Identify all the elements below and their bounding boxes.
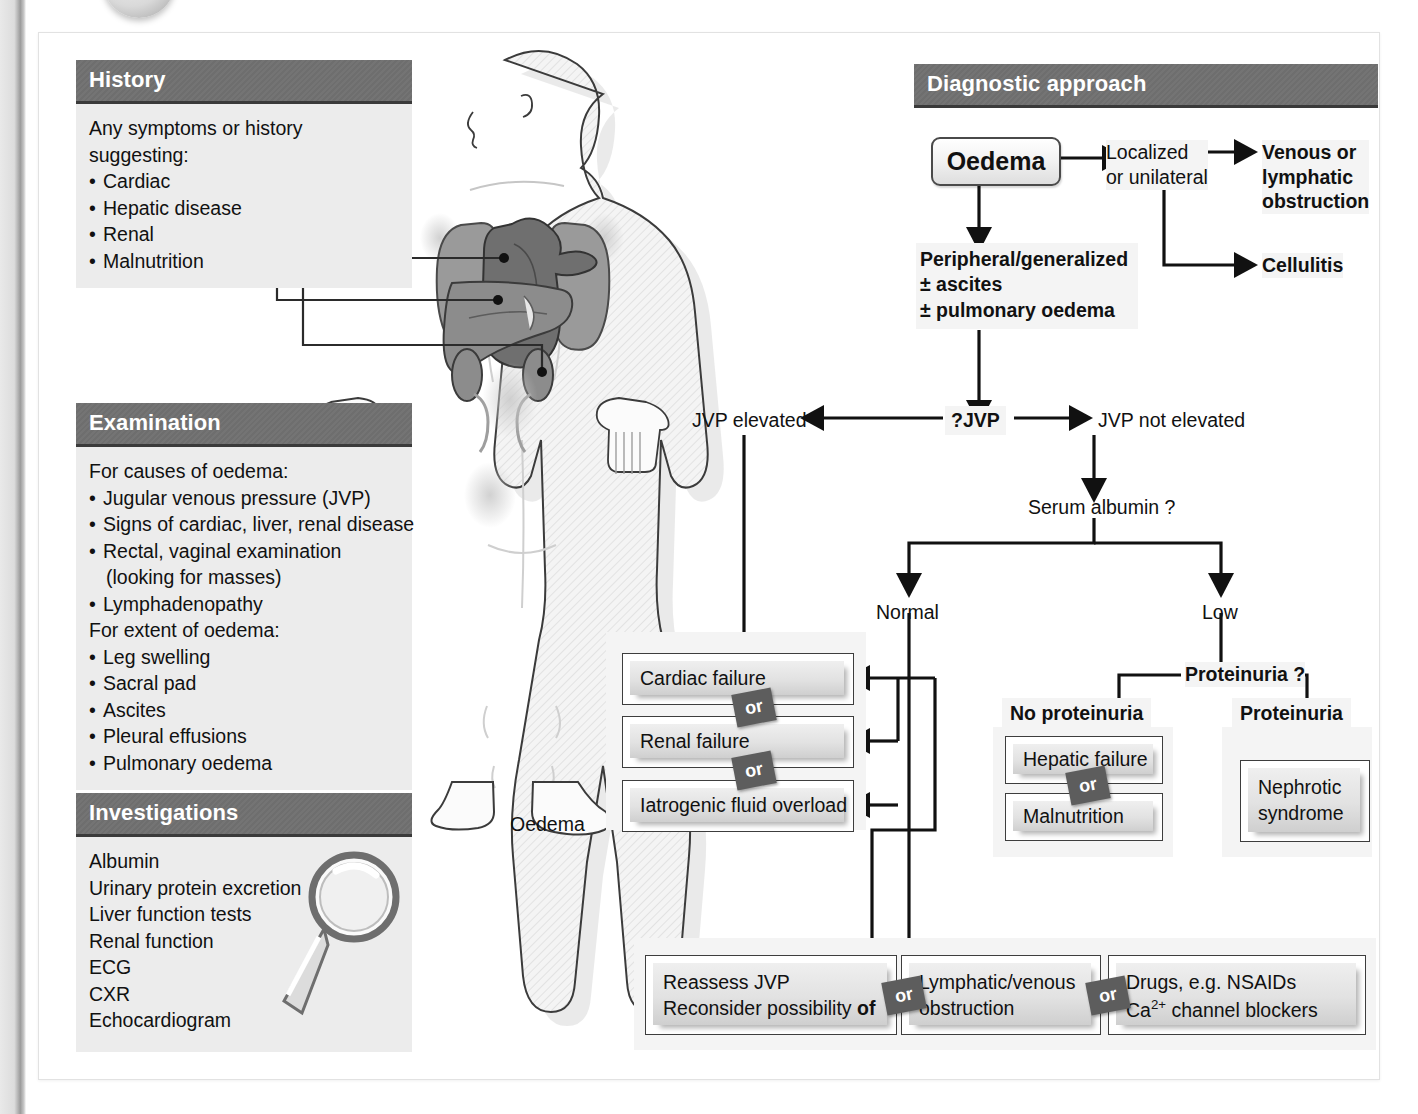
- investigations-panel-title: Investigations: [76, 793, 412, 837]
- box-drugs-line1: Drugs, e.g. NSAIDs: [1126, 970, 1356, 996]
- node-venous-line1: Venous or: [1262, 140, 1369, 165]
- examination-item-label: For extent of oedema:: [89, 619, 280, 641]
- box-reassess-line2-text: Reconsider possibility: [663, 997, 857, 1019]
- box-drugs-line2: Ca2+ channel blockers: [1126, 996, 1356, 1023]
- box-nephrotic-line1: Nephrotic: [1258, 775, 1360, 801]
- examination-item-label: Rectal, vaginal examination: [103, 540, 341, 562]
- investigations-panel: Investigations AlbuminUrinary protein ex…: [76, 793, 412, 1052]
- examination-panel-title: Examination: [76, 403, 412, 447]
- examination-item-7: •Leg swelling: [89, 644, 400, 671]
- examination-item-0: For causes of oedema:: [89, 458, 400, 485]
- box-reassess-jvp-label: Reassess JVP Reconsider possibility of: [653, 963, 887, 1025]
- investigations-panel-body: AlbuminUrinary protein excretionLiver fu…: [76, 837, 412, 1052]
- examination-item-label: (looking for masses): [106, 566, 282, 588]
- bullet-icon: •: [89, 697, 103, 724]
- box-lymphatic-venous-obstruction: Lymphatic/venous obstruction: [901, 955, 1101, 1035]
- history-panel: History Any symptoms or historysuggestin…: [76, 60, 412, 288]
- history-item-0: Any symptoms or history: [89, 115, 400, 142]
- examination-item-10: •Pleural effusions: [89, 723, 400, 750]
- examination-item-label: Lymphadenopathy: [103, 593, 263, 615]
- page-root: History Any symptoms or historysuggestin…: [0, 0, 1418, 1114]
- investigations-item-label: ECG: [89, 956, 131, 978]
- box-reassess-jvp: Reassess JVP Reconsider possibility of: [645, 955, 897, 1035]
- examination-item-label: Pleural effusions: [103, 725, 247, 747]
- examination-item-4: (looking for masses): [89, 564, 400, 591]
- history-item-4: •Renal: [89, 221, 400, 248]
- box-drugs-rest: channel blockers: [1166, 998, 1318, 1020]
- box-cardiac-failure-label: Cardiac failure: [630, 661, 844, 695]
- box-drugs: Drugs, e.g. NSAIDs Ca2+ channel blockers: [1108, 955, 1366, 1035]
- page-decoration-circle: [103, 0, 175, 18]
- box-reassess-line2-emph: of: [857, 997, 875, 1019]
- node-peripheral-line1: Peripheral/generalized: [920, 247, 1128, 272]
- examination-item-11: •Pulmonary oedema: [89, 750, 400, 777]
- examination-panel: Examination For causes of oedema:•Jugula…: [76, 403, 412, 790]
- node-oedema-label: Oedema: [947, 147, 1046, 176]
- examination-item-label: For causes of oedema:: [89, 460, 288, 482]
- examination-item-label: Leg swelling: [103, 646, 210, 668]
- history-item-2: •Cardiac: [89, 168, 400, 195]
- box-reassess-line1: Reassess JVP: [663, 970, 887, 996]
- node-normal: Normal: [876, 600, 939, 625]
- box-drugs-charge: 2+: [1151, 997, 1166, 1012]
- node-localized: Localized or unilateral: [1106, 140, 1208, 190]
- bullet-icon: •: [89, 750, 103, 777]
- examination-item-6: For extent of oedema:: [89, 617, 400, 644]
- box-lymphatic-line1: Lymphatic/venous: [919, 970, 1091, 996]
- page-left-gutter-strip: [0, 0, 26, 1114]
- diagnostic-approach-panel: Diagnostic approach: [914, 64, 1378, 108]
- box-iatrogenic-label: Iatrogenic fluid overload: [630, 788, 844, 822]
- examination-item-label: Sacral pad: [103, 672, 196, 694]
- bullet-icon: •: [89, 670, 103, 697]
- node-proteinuria-question: Proteinuria ?: [1185, 662, 1305, 687]
- node-jvp-not-elevated: JVP not elevated: [1098, 408, 1245, 433]
- examination-item-label: Jugular venous pressure (JVP): [103, 487, 371, 509]
- examination-panel-body: For causes of oedema:•Jugular venous pre…: [76, 447, 412, 790]
- examination-item-label: Pulmonary oedema: [103, 752, 272, 774]
- node-oedema: Oedema: [931, 137, 1061, 186]
- box-renal-failure-label: Renal failure: [630, 724, 844, 758]
- node-venous-line3: obstruction: [1262, 189, 1369, 214]
- box-nephrotic-syndrome-label: Nephrotic syndrome: [1248, 768, 1360, 832]
- examination-item-label: Signs of cardiac, liver, renal disease: [103, 513, 414, 535]
- investigations-item-label: Liver function tests: [89, 903, 252, 925]
- history-item-label: Cardiac: [103, 170, 170, 192]
- examination-item-2: •Signs of cardiac, liver, renal disease: [89, 511, 400, 538]
- box-nephrotic-syndrome: Nephrotic syndrome: [1240, 760, 1370, 842]
- history-panel-body: Any symptoms or historysuggesting:•Cardi…: [76, 104, 412, 288]
- box-reassess-line2: Reconsider possibility of: [663, 996, 887, 1022]
- box-drugs-label: Drugs, e.g. NSAIDs Ca2+ channel blockers: [1116, 963, 1356, 1025]
- bullet-icon: •: [89, 485, 103, 512]
- node-peripheral-line3: ± pulmonary oedema: [920, 298, 1128, 323]
- bullet-icon: •: [89, 195, 103, 222]
- node-jvp-elevated: JVP elevated: [692, 408, 807, 433]
- examination-item-label: Ascites: [103, 699, 166, 721]
- investigations-item-label: Echocardiogram: [89, 1009, 231, 1031]
- diagnostic-approach-title: Diagnostic approach: [914, 64, 1378, 108]
- bullet-icon: •: [89, 168, 103, 195]
- bullet-icon: •: [89, 644, 103, 671]
- bullet-icon: •: [89, 221, 103, 248]
- examination-item-3: •Rectal, vaginal examination: [89, 538, 400, 565]
- examination-item-8: •Sacral pad: [89, 670, 400, 697]
- bullet-icon: •: [89, 538, 103, 565]
- investigations-item-label: Renal function: [89, 930, 214, 952]
- history-item-label: Malnutrition: [103, 250, 204, 272]
- examination-item-5: •Lymphadenopathy: [89, 591, 400, 618]
- node-venous-lymphatic-obstruction: Venous or lymphatic obstruction: [1262, 140, 1369, 214]
- history-item-label: suggesting:: [89, 144, 189, 166]
- history-item-3: •Hepatic disease: [89, 195, 400, 222]
- history-item-label: Any symptoms or history: [89, 117, 302, 139]
- examination-item-1: •Jugular venous pressure (JVP): [89, 485, 400, 512]
- node-localized-line2: or unilateral: [1106, 165, 1208, 190]
- history-item-label: Renal: [103, 223, 154, 245]
- node-peripheral-generalized: Peripheral/generalized ± ascites ± pulmo…: [916, 243, 1138, 329]
- bullet-icon: •: [89, 511, 103, 538]
- history-item-5: •Malnutrition: [89, 248, 400, 275]
- history-item-label: Hepatic disease: [103, 197, 242, 219]
- examination-item-9: •Ascites: [89, 697, 400, 724]
- history-item-1: suggesting:: [89, 142, 400, 169]
- figure-caption: Oedema: [510, 812, 585, 837]
- investigations-item-label: Albumin: [89, 850, 159, 872]
- investigations-item-label: CXR: [89, 983, 130, 1005]
